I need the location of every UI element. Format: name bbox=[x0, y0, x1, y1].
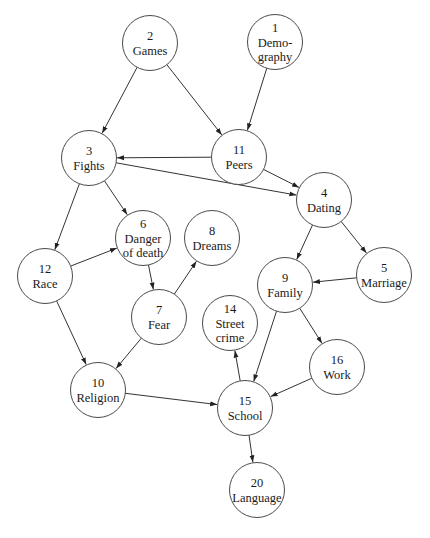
edge-3-to-4 bbox=[116, 163, 296, 195]
node-label: Fear bbox=[148, 318, 171, 332]
edge-3-to-12 bbox=[55, 184, 80, 250]
node-number: 4 bbox=[321, 186, 328, 200]
node-label: Dreams bbox=[193, 239, 232, 253]
node-label: Race bbox=[33, 277, 58, 291]
node-label: Demo- bbox=[258, 36, 293, 50]
edge-2-to-3 bbox=[102, 67, 137, 133]
node-15: 15School bbox=[218, 381, 273, 436]
node-2: 2Games bbox=[123, 16, 178, 71]
edge-4-to-5 bbox=[341, 222, 366, 254]
node-12: 12Race bbox=[18, 249, 73, 304]
nodes-layer: 1Demo-graphy2Games3Fights11Peers4Dating6… bbox=[18, 15, 412, 518]
node-label: crime bbox=[216, 331, 245, 345]
node-number: 20 bbox=[251, 476, 264, 490]
node-number: 14 bbox=[224, 302, 237, 316]
node-number: 11 bbox=[233, 143, 245, 157]
node-number: 8 bbox=[209, 224, 215, 238]
edge-5-to-9 bbox=[313, 278, 357, 282]
node-label: Peers bbox=[225, 158, 252, 172]
edge-10-to-15 bbox=[125, 393, 217, 404]
node-label: Fights bbox=[73, 159, 104, 173]
node-11: 11Peers bbox=[212, 130, 267, 185]
edge-7-to-10 bbox=[116, 338, 141, 368]
node-label: Street bbox=[215, 317, 245, 331]
node-label: Danger bbox=[125, 232, 163, 246]
edge-15-to-14 bbox=[235, 351, 240, 381]
edge-15-to-20 bbox=[249, 435, 253, 462]
edge-9-to-16 bbox=[300, 308, 322, 343]
node-number: 10 bbox=[92, 376, 105, 390]
node-3: 3Fights bbox=[62, 131, 117, 186]
edge-4-to-9 bbox=[297, 225, 313, 260]
edge-16-to-15 bbox=[271, 378, 312, 396]
node-10: 10Religion bbox=[71, 363, 126, 418]
node-1: 1Demo-graphy bbox=[248, 15, 303, 70]
edge-6-to-7 bbox=[149, 265, 154, 290]
node-number: 3 bbox=[86, 144, 92, 158]
edge-12-to-10 bbox=[57, 301, 87, 365]
node-number: 12 bbox=[39, 262, 52, 276]
node-number: 9 bbox=[282, 271, 288, 285]
node-label: of death bbox=[123, 246, 164, 260]
node-number: 6 bbox=[140, 217, 146, 231]
node-8: 8Dreams bbox=[185, 211, 240, 266]
node-number: 2 bbox=[147, 29, 153, 43]
node-number: 15 bbox=[239, 394, 252, 408]
node-label: Language bbox=[232, 491, 282, 505]
node-number: 1 bbox=[272, 21, 278, 35]
node-7: 7Fear bbox=[132, 290, 187, 345]
edge-1-to-11 bbox=[247, 68, 266, 130]
directed-graph-diagram: 1Demo-graphy2Games3Fights11Peers4Dating6… bbox=[0, 0, 430, 538]
node-4: 4Dating bbox=[297, 173, 352, 228]
edge-2-to-11 bbox=[167, 65, 222, 135]
node-label: Family bbox=[267, 286, 303, 300]
edge-11-to-4 bbox=[264, 169, 300, 187]
node-label: Work bbox=[323, 368, 351, 382]
node-16: 16Work bbox=[310, 340, 365, 395]
node-number: 16 bbox=[331, 353, 344, 367]
edge-11-to-3 bbox=[117, 157, 212, 158]
node-label: Marriage bbox=[361, 276, 407, 290]
node-14: 14Streetcrime bbox=[203, 296, 258, 351]
edge-7-to-8 bbox=[174, 261, 196, 294]
node-9: 9Family bbox=[258, 258, 313, 313]
node-label: Dating bbox=[307, 201, 342, 215]
edge-12-to-6 bbox=[71, 248, 117, 266]
node-6: 6Dangerof death bbox=[116, 211, 171, 266]
node-5: 5Marriage bbox=[357, 248, 412, 303]
node-label: Religion bbox=[76, 391, 120, 405]
node-number: 5 bbox=[381, 261, 387, 275]
node-label: graphy bbox=[258, 50, 293, 64]
node-number: 7 bbox=[156, 303, 162, 317]
node-20: 20Language bbox=[230, 463, 285, 518]
node-label: School bbox=[228, 409, 263, 423]
node-label: Games bbox=[133, 44, 168, 58]
edge-3-to-6 bbox=[104, 181, 127, 215]
